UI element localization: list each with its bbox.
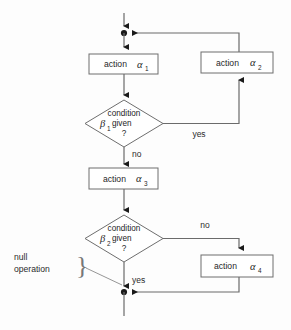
action4-box bbox=[201, 255, 273, 277]
edge-condition1-no: no bbox=[124, 147, 142, 164]
action4-subscript: 4 bbox=[258, 267, 262, 274]
null-operation-line2: operation bbox=[14, 264, 50, 274]
action3-symbol: α bbox=[136, 173, 142, 184]
node-condition-beta-1: condition β 1 given ? bbox=[85, 100, 163, 147]
condition1-line2: given bbox=[112, 119, 132, 128]
condition2-no-label: no bbox=[200, 220, 210, 230]
condition1-symbol: β bbox=[99, 118, 106, 129]
condition2-yes-label: yes bbox=[132, 275, 145, 285]
top-merge-junction bbox=[121, 30, 127, 47]
condition2-subscript: 2 bbox=[107, 240, 111, 247]
action3-subscript: 3 bbox=[144, 180, 148, 187]
feedback-path-action2 bbox=[133, 33, 239, 52]
action1-subscript: 1 bbox=[145, 65, 149, 72]
condition2-no-path bbox=[163, 239, 239, 249]
condition2-line3: ? bbox=[122, 244, 127, 253]
action3-label: action bbox=[103, 174, 126, 184]
condition1-subscript: 1 bbox=[107, 125, 111, 132]
action1-symbol: α bbox=[137, 59, 143, 70]
condition1-yes-label: yes bbox=[192, 129, 205, 139]
condition2-symbol: β bbox=[99, 233, 106, 244]
annotation-null-operation: null operation } bbox=[14, 251, 122, 285]
condition2-line2: given bbox=[112, 234, 132, 243]
node-action-alpha-4: action α 4 bbox=[201, 255, 273, 277]
condition1-no-label: no bbox=[132, 149, 142, 159]
action2-label: action bbox=[216, 58, 239, 68]
node-condition-beta-2: condition β 2 given ? bbox=[85, 215, 163, 262]
node-action-alpha-2: action α 2 bbox=[201, 52, 273, 73]
action4-label: action bbox=[214, 261, 237, 271]
flowchart-svg: action α 1 action α 2 condition β 1 give… bbox=[0, 0, 291, 330]
annotation-brace: } bbox=[76, 251, 88, 280]
action2-symbol: α bbox=[250, 57, 256, 68]
null-operation-line1: null bbox=[14, 252, 27, 262]
action1-label: action bbox=[104, 59, 127, 69]
condition1-line3: ? bbox=[122, 129, 127, 138]
flowchart-canvas: action α 1 action α 2 condition β 1 give… bbox=[0, 0, 291, 330]
action4-return-path bbox=[133, 277, 239, 292]
node-action-alpha-3: action α 3 bbox=[89, 168, 158, 189]
edge-condition2-no: no bbox=[163, 220, 239, 248]
bottom-merge-junction bbox=[121, 289, 127, 316]
node-action-alpha-1: action α 1 bbox=[89, 54, 158, 74]
edge-action4-to-bottom-junction bbox=[133, 277, 239, 292]
annotation-leader-line bbox=[86, 268, 122, 285]
edge-condition1-yes: yes bbox=[163, 80, 239, 139]
condition1-line1: condition bbox=[108, 109, 141, 118]
action2-subscript: 2 bbox=[258, 64, 262, 71]
action4-symbol: α bbox=[250, 261, 256, 272]
condition2-line1: condition bbox=[108, 224, 141, 233]
condition1-yes-path bbox=[163, 80, 239, 124]
feedback-loop-action2 bbox=[133, 33, 239, 52]
edge-condition2-yes: yes bbox=[124, 262, 145, 286]
